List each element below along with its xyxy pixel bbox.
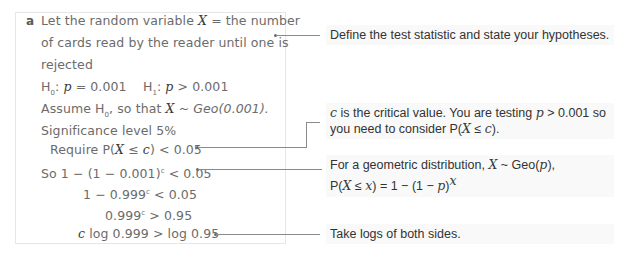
assumption-line: Assume H0, so that X ~ Geo(0.001). — [41, 101, 269, 123]
working-line-2: of cards read by the reader until one is — [41, 35, 289, 51]
hypotheses-line: H0: p = 0.001 H1: p > 0.001 — [41, 79, 228, 101]
require-line: Require P(X ≤ c) < 0.05 — [50, 142, 202, 158]
connector-line-4 — [216, 234, 320, 235]
connector-line-2b — [306, 122, 307, 148]
note-take-logs: Take logs of both sides. — [326, 224, 614, 244]
significance-line: Significance level 5% — [41, 123, 176, 139]
part-label: a — [26, 14, 34, 28]
connector-line-2a — [198, 147, 306, 148]
note-geometric-distribution: For a geometric distribution, X ~ Geo(p)… — [326, 155, 614, 197]
inequality-line-1: 1 − 0.999c < 0.05 — [83, 184, 197, 203]
note-define-test-statistic: Define the test statistic and state your… — [326, 25, 614, 45]
working-line-1: Let the random variable X = the number — [41, 13, 300, 29]
logs-line: c log 0.999 > log 0.95 — [78, 226, 219, 242]
connector-line-1 — [276, 35, 320, 36]
connector-line-3 — [198, 169, 322, 170]
so-line: So 1 − (1 − 0.001)c < 0.05 — [41, 163, 212, 182]
note-critical-value: c is the critical value. You are testing… — [326, 103, 614, 139]
inequality-line-2: 0.999c > 0.95 — [105, 205, 192, 224]
working-line-3: rejected — [41, 57, 93, 73]
connector-line-2c — [306, 122, 320, 123]
